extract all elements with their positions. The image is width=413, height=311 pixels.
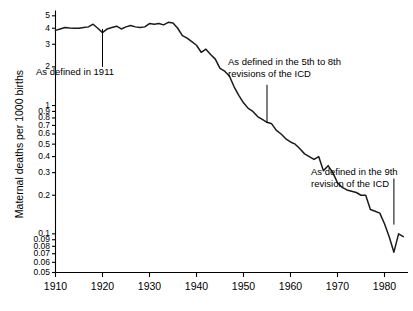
chart-plot-area: [0, 0, 413, 311]
chart-annotation: As defined in the 9th revision of the IC…: [311, 166, 398, 189]
y-tick-label: 5: [45, 10, 50, 20]
y-tick-label: 0.06: [33, 257, 50, 267]
x-tick-label: 1980: [355, 280, 413, 292]
y-tick-label: 0.1: [38, 228, 50, 238]
y-tick-label: 0.6: [38, 128, 50, 138]
y-tick-label: 1: [45, 100, 50, 110]
chart-annotation: As defined in the 5th to 8th revisions o…: [228, 56, 341, 79]
y-tick-label: 0.2: [38, 190, 50, 200]
y-tick-label: 0.4: [38, 151, 50, 161]
y-tick-label: 0.5: [38, 139, 50, 149]
chart-figure: Maternal deaths per 1000 births 0.050.06…: [0, 0, 413, 311]
chart-annotation: As defined in 1911: [36, 66, 114, 78]
y-tick-label: 4: [45, 23, 50, 33]
y-tick-label: 0.3: [38, 167, 50, 177]
y-tick-label: 3: [45, 39, 50, 49]
y-tick-label: 0.05: [33, 267, 50, 277]
